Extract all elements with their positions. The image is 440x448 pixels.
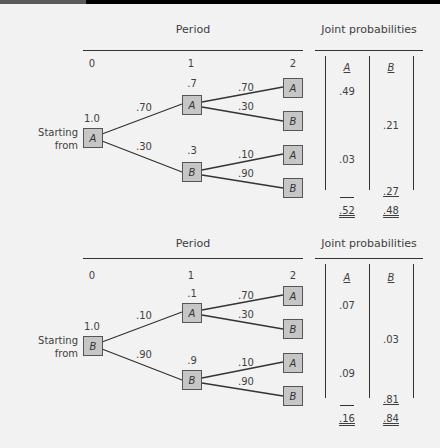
state-box-period1-a: A [182, 303, 202, 323]
branch-prob-0-to-b: .90 [136, 349, 152, 361]
total-b: .84 [383, 413, 399, 425]
state-box-period1-a: A [182, 95, 202, 115]
branch-prob-0-to-a: .10 [136, 310, 152, 322]
state-box-period2-aa: A [283, 78, 303, 98]
branch-prob-b-to-b: .90 [238, 168, 254, 180]
state-box-period2-ab: B [283, 111, 303, 131]
state-box-start: A [83, 128, 103, 148]
start-probability: 1.0 [84, 113, 100, 125]
tree-edges [0, 208, 440, 448]
total-a: .16 [339, 413, 355, 425]
joint-value-bb: .81 [383, 394, 399, 406]
joint-header-b: B [388, 62, 395, 74]
branch-prob-a-to-a: .70 [238, 82, 254, 94]
branch-prob-b-to-a: .10 [238, 149, 254, 161]
state-box-period2-bb: B [283, 178, 303, 198]
sum-rule-a [340, 197, 354, 198]
from-label: from [34, 348, 78, 360]
period1-prob-b: .9 [187, 355, 197, 367]
probability-tree-diagram-start-b: Period Joint probabilities 0 1 2 1.0 Sta… [0, 208, 440, 416]
tree-edges [0, 0, 440, 208]
joint-header-a: A [344, 272, 351, 284]
joint-column-rule-right [413, 56, 414, 190]
state-box-start: B [83, 336, 103, 356]
joint-value-aa: .49 [339, 86, 355, 98]
state-box-period1-b: B [182, 370, 202, 390]
joint-column-rule-left [325, 264, 326, 398]
start-probability: 1.0 [84, 321, 100, 333]
branch-prob-a-to-b: .30 [238, 309, 254, 321]
period1-prob-a: .7 [187, 78, 197, 90]
state-box-period2-ba: A [283, 353, 303, 373]
joint-value-ba: .03 [339, 154, 355, 166]
probability-tree-diagram-start-a: Period Joint probabilities 0 1 2 1.0 Sta… [0, 0, 440, 208]
joint-value-ba: .09 [339, 368, 355, 380]
period1-prob-a: .1 [187, 288, 197, 300]
branch-prob-0-to-a: .70 [136, 102, 152, 114]
branch-prob-0-to-b: .30 [136, 141, 152, 153]
branch-prob-a-to-a: .70 [238, 290, 254, 302]
state-box-period1-b: B [182, 162, 202, 182]
state-box-period2-aa: A [283, 286, 303, 306]
joint-column-rule-middle [369, 264, 370, 398]
starting-label: Starting [34, 127, 78, 139]
joint-value-aa: .07 [339, 300, 355, 312]
joint-value-ab: .21 [383, 120, 399, 132]
joint-column-rule-left [325, 56, 326, 190]
starting-label: Starting [34, 335, 78, 347]
joint-value-bb: .27 [383, 186, 399, 198]
branch-prob-b-to-a: .10 [238, 357, 254, 369]
joint-header-a: A [344, 62, 351, 74]
joint-column-rule-middle [369, 56, 370, 190]
period1-prob-b: .3 [187, 145, 197, 157]
branch-prob-b-to-b: .90 [238, 376, 254, 388]
state-box-period2-ba: A [283, 145, 303, 165]
state-box-period2-bb: B [283, 386, 303, 406]
sum-rule-a [340, 405, 354, 406]
branch-prob-a-to-b: .30 [238, 101, 254, 113]
joint-value-ab: .03 [383, 334, 399, 346]
joint-header-b: B [388, 272, 395, 284]
joint-column-rule-right [413, 264, 414, 398]
from-label: from [34, 140, 78, 152]
state-box-period2-ab: B [283, 319, 303, 339]
